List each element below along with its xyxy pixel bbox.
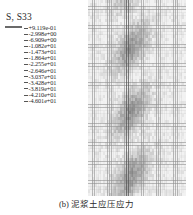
legend-title: S, S33 bbox=[6, 12, 85, 23]
mesh-viewport[interactable] bbox=[88, 0, 186, 196]
legend-value: -4.601e+01 bbox=[28, 98, 56, 104]
legend-entry: -4.601e+01 bbox=[24, 98, 85, 104]
contour-legend: S, S33 +9.119e-01-2.998e+00-6.909e+00-1.… bbox=[5, 12, 85, 104]
legend-color-bar bbox=[5, 26, 22, 28]
finite-element-mesh bbox=[88, 0, 186, 196]
legend-body: +9.119e-01-2.998e+00-6.909e+00-1.082e+01… bbox=[5, 25, 85, 104]
figure-caption: (b) 泥浆土应压应力 bbox=[0, 199, 193, 210]
legend-value-list: +9.119e-01-2.998e+00-6.909e+00-1.082e+01… bbox=[24, 25, 85, 104]
contour-plot-screenshot: S, S33 +9.119e-01-2.998e+00-6.909e+00-1.… bbox=[0, 0, 193, 215]
